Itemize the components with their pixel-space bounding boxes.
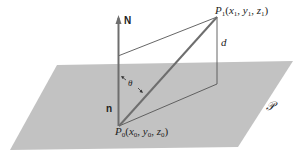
- top-parallel-line: [118, 17, 217, 56]
- label-n: n: [106, 104, 112, 114]
- label-plane: 𝒫: [266, 100, 275, 112]
- p0-name: P: [115, 125, 122, 137]
- point-plane-distance-diagram: N n θ d 𝒫 P1(x1, y1, z1) P0(x0, y0, z0): [0, 0, 299, 157]
- label-N: N: [124, 16, 131, 26]
- label-p0: P0(x0, y0, z0): [115, 126, 168, 139]
- p1-name: P: [215, 4, 222, 16]
- label-p1: P1(x1, y1, z1): [215, 5, 268, 18]
- arrowhead-icon: [116, 15, 122, 24]
- label-theta: θ: [128, 79, 132, 88]
- label-d: d: [221, 37, 227, 48]
